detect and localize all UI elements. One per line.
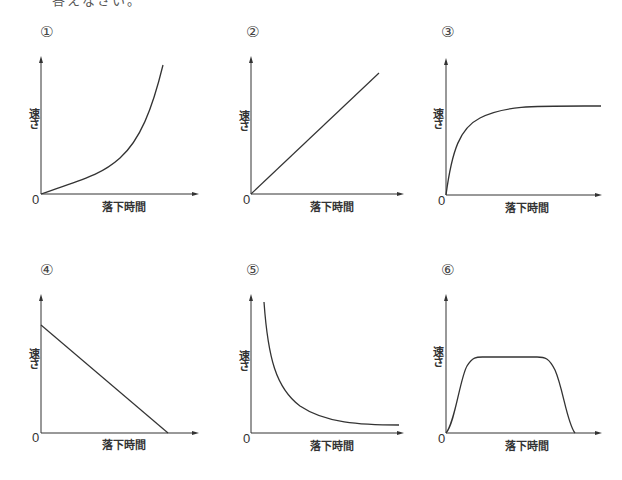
x-axis-label: 落下時間 xyxy=(310,437,354,453)
x-axis-label: 落下時間 xyxy=(102,198,146,214)
graph-panel-2: ② 速さ 0 落下時間 xyxy=(210,20,410,240)
graph-panel-4: ④ 速さ 0 落下時間 xyxy=(0,258,200,478)
y-axis-label: 速さ xyxy=(25,108,41,128)
graph-panel-6: ⑥ 速さ 0 落下時間 xyxy=(405,258,605,478)
x-axis-label: 落下時間 xyxy=(505,437,549,453)
origin-label: 0 xyxy=(243,192,250,207)
graph-panel-3: ③ 速さ 0 落下時間 xyxy=(405,20,605,240)
y-axis-label: 速さ xyxy=(235,350,251,370)
origin-label: 0 xyxy=(32,192,39,207)
graph-panel-1: ① 速さ 0 落下時間 xyxy=(0,20,200,240)
origin-label: 0 xyxy=(243,431,250,446)
y-axis-label: 速さ xyxy=(25,348,41,368)
graph-panel-5: ⑤ 速さ 0 落下時間 xyxy=(210,258,410,478)
y-axis-label: 速さ xyxy=(235,110,251,130)
origin-label: 0 xyxy=(32,430,39,445)
y-axis-label: 速さ xyxy=(429,108,445,128)
origin-label: 0 xyxy=(438,431,445,446)
origin-label: 0 xyxy=(438,193,445,208)
x-axis-label: 落下時間 xyxy=(102,436,146,452)
x-axis-label: 落下時間 xyxy=(310,198,354,214)
question-text-partial: 答えなさい。 xyxy=(52,0,142,9)
y-axis-label: 速さ xyxy=(429,346,445,366)
x-axis-label: 落下時間 xyxy=(505,199,549,215)
